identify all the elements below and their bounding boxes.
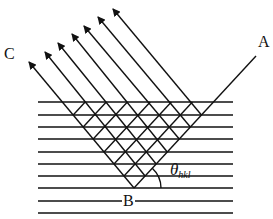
diffraction-diagram: C A B θhkl bbox=[0, 0, 273, 219]
label-c: C bbox=[4, 46, 15, 62]
diagram-lines bbox=[0, 0, 273, 219]
diffracted-ray-arrow bbox=[29, 62, 134, 188]
lattice-ray-line bbox=[114, 102, 171, 164]
label-b: B bbox=[122, 193, 135, 209]
label-a: A bbox=[258, 34, 270, 50]
theta-hkl-label: θhkl bbox=[170, 161, 191, 180]
diffracted-ray-arrow bbox=[58, 43, 156, 164]
theta-subscript: hkl bbox=[178, 169, 190, 180]
diffracted-ray-arrow bbox=[113, 9, 201, 115]
lattice-ray-line bbox=[73, 102, 85, 115]
diffracted-ray-arrow bbox=[98, 17, 190, 127]
theta-angle-arc bbox=[152, 168, 161, 188]
diffracted-ray-arrow bbox=[45, 52, 145, 176]
